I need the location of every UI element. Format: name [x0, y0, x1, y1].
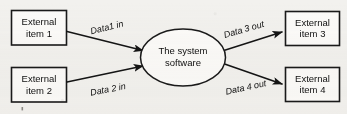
external-item-3-label-line2: item 3: [300, 28, 326, 39]
flow-data2-in[interactable]: Data 2 in: [67, 66, 143, 98]
external-item-1-label-line2: item 1: [26, 28, 52, 39]
flow-data4-out-arrow: [216, 61, 282, 84]
flow-data1-in-arrow: [67, 32, 143, 51]
diagram-canvas: External item 1 External item 2 External…: [0, 0, 347, 114]
flow-data3-out[interactable]: Data 3 out: [216, 19, 282, 53]
flow-data2-in-label: Data 2 in: [89, 81, 126, 98]
node-external-item-3[interactable]: External item 3: [286, 12, 340, 46]
flow-data4-out[interactable]: Data 4 out: [216, 61, 282, 97]
external-item-4-label-line2: item 4: [300, 84, 326, 95]
scan-speck: [22, 107, 24, 110]
external-item-4-label-line1: External: [295, 73, 330, 84]
system-software-label-line2: software: [165, 57, 201, 68]
flow-data3-out-label: Data 3 out: [222, 19, 265, 40]
node-system-software[interactable]: The system software: [141, 29, 226, 86]
external-item-3-label-line1: External: [295, 17, 330, 28]
node-external-item-4[interactable]: External item 4: [286, 68, 340, 102]
external-item-2-label-line1: External: [22, 73, 57, 84]
data-flow-diagram: External item 1 External item 2 External…: [0, 0, 347, 114]
flow-data2-in-arrow: [67, 66, 143, 82]
flow-data1-in-label: Data1 in: [89, 18, 124, 36]
external-item-1-label-line1: External: [22, 16, 57, 27]
system-software-label-line1: The system: [158, 45, 207, 56]
flow-data1-in[interactable]: Data1 in: [67, 18, 143, 50]
node-external-item-1[interactable]: External item 1: [12, 11, 67, 46]
node-external-item-2[interactable]: External item 2: [12, 68, 67, 103]
external-item-2-label-line2: item 2: [26, 85, 52, 96]
flow-data4-out-label: Data 4 out: [225, 78, 268, 97]
